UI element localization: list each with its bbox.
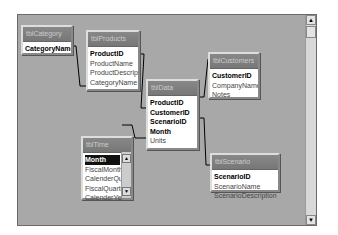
field-categoryname[interactable]: CategoryName (90, 78, 136, 88)
field-scenariodescription[interactable]: ScenarioDescription (214, 191, 276, 201)
table-title[interactable]: tblCustomers (210, 54, 258, 69)
table-tblCategory[interactable]: tblCategory CategoryName (21, 25, 73, 55)
relationships-window: tblCategory CategoryName tblProducts Pro… (17, 14, 317, 226)
field-fiscalmonth[interactable]: FiscalMonth (85, 165, 120, 175)
field-calenderquarter[interactable]: CalenderQuar (85, 174, 120, 184)
field-scenarioid[interactable]: ScenarioID (214, 172, 276, 182)
field-productdescription[interactable]: ProductDescriptic (90, 68, 136, 78)
field-productid[interactable]: ProductID (150, 98, 195, 108)
field-calenderyear[interactable]: CalenderYear (85, 193, 120, 203)
field-scenarioid[interactable]: ScenarioID (150, 117, 195, 127)
table-tblData[interactable]: tblData ProductID CustomerID ScenarioID … (146, 79, 199, 150)
field-notes[interactable]: Notes (212, 90, 256, 100)
table-title[interactable]: tblCategory (23, 27, 71, 42)
field-productname[interactable]: ProductName (90, 59, 136, 69)
field-companyname[interactable]: CompanyName (212, 81, 256, 91)
field-customerid[interactable]: CustomerID (150, 108, 195, 118)
table-title[interactable]: tblTime (83, 138, 131, 153)
field-month[interactable]: Month (85, 155, 120, 165)
field-month[interactable]: Month (150, 127, 195, 137)
scroll-down-icon[interactable]: ▼ (306, 215, 316, 225)
field-customerid[interactable]: CustomerID (212, 71, 256, 81)
field-productid[interactable]: ProductID (90, 49, 136, 59)
table-tblCustomers[interactable]: tblCustomers CustomerID CompanyName Note… (208, 52, 260, 99)
scroll-up-icon[interactable]: ▲ (306, 15, 316, 25)
table-tblScenario[interactable]: tblScenario ScenarioID ScenarioName Scen… (210, 153, 280, 192)
scroll-up-arrow-icon[interactable]: ▲ (122, 154, 131, 163)
field-units[interactable]: Units (150, 136, 195, 146)
field-fiscalquarter[interactable]: FiscalQuarter (85, 184, 120, 194)
table-scrollbar[interactable]: ▲ ▼ (121, 152, 131, 198)
table-tblProducts[interactable]: tblProducts ProductID ProductName Produc… (86, 30, 140, 91)
field-categoryname[interactable]: CategoryName (25, 44, 69, 54)
table-tblTime[interactable]: tblTime Month FiscalMonth CalenderQuar F… (81, 136, 133, 200)
table-title[interactable]: tblScenario (212, 155, 278, 170)
table-title[interactable]: tblData (148, 81, 197, 96)
field-scenarioname[interactable]: ScenarioName (214, 182, 276, 192)
scroll-thumb[interactable] (306, 26, 316, 38)
vertical-scrollbar[interactable]: ▲ ▼ (305, 15, 316, 225)
table-title[interactable]: tblProducts (88, 32, 138, 47)
scroll-down-arrow-icon[interactable]: ▼ (122, 187, 131, 196)
